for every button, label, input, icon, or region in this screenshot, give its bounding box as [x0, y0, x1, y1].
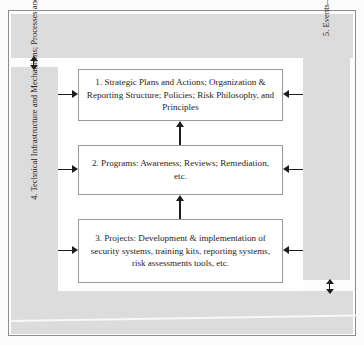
process-box-projects: 3. Projects: Development & implementatio…	[78, 219, 283, 283]
arrow-left-band-to-programs	[58, 165, 78, 174]
band-top	[11, 14, 353, 58]
arrow-up-projects-to-programs	[176, 195, 185, 219]
arrow-head-right-icon	[72, 90, 78, 98]
figure-container: 1. Strategic Plans and Actions; Organiza…	[0, 0, 364, 345]
arrow-shaft	[287, 169, 303, 171]
arrow-head-up-icon	[176, 195, 184, 201]
arrow-shaft	[179, 199, 181, 219]
arrow-left-band-to-strategic	[58, 90, 78, 99]
arrow-right-band-to-programs	[283, 165, 303, 174]
arrow-head-right-icon	[72, 246, 78, 254]
arrow-shaft	[179, 125, 181, 145]
arrow-right-band-to-strategic	[283, 90, 303, 99]
band-label-right: 5. Events–Planned and Unplanned–Handling…	[303, 0, 350, 61]
arrow-shaft	[287, 94, 303, 96]
arrow-right-band-to-projects	[283, 246, 303, 255]
arrow-head-left-icon	[283, 165, 289, 173]
arrow-up-programs-to-strategic	[176, 121, 185, 145]
process-box-programs: 2. Programs: Awareness; Reviews; Remedia…	[78, 145, 283, 195]
arrow-double-bottom-right-band-link	[325, 279, 334, 294]
arrow-shaft	[287, 250, 303, 252]
arrow-head-up-icon	[176, 121, 184, 127]
band-bottom	[11, 291, 353, 334]
arrow-head-left-icon	[283, 246, 289, 254]
arrow-head-right-icon	[72, 165, 78, 173]
arrow-head-up-icon	[326, 279, 334, 284]
arrow-left-band-to-projects	[58, 246, 78, 255]
band-label-left: 4. Technical Infrastructure and Mechanis…	[11, 0, 58, 114]
process-box-strategic-plans: 1. Strategic Plans and Actions; Organiza…	[78, 69, 283, 121]
arrow-head-left-icon	[283, 90, 289, 98]
arrow-head-down-icon	[326, 289, 334, 294]
